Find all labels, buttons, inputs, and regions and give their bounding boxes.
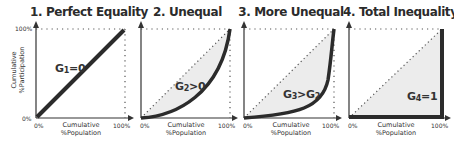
y-tick-100: 100%: [15, 25, 32, 32]
x-axis-label: Cumulative %Population: [371, 121, 421, 137]
x-tick-0: 0%: [243, 122, 253, 129]
gini-symbol: G: [55, 62, 64, 75]
x-tick-100: 100%: [218, 122, 235, 129]
gini-annotation: G3>G2: [283, 88, 320, 101]
x-axis-label-line2: %Population: [371, 129, 421, 137]
panel-more-unequal: 3. More Unequal 0% 100% Cumulative %Popu…: [238, 0, 344, 147]
y-axis-label: Cumulative %Participation: [10, 40, 26, 100]
gini-annotation: G4=1: [407, 90, 437, 103]
gini-value: =1: [421, 90, 437, 103]
x-tick-100: 100%: [431, 122, 448, 129]
x-axis-label-line1: Cumulative: [371, 121, 421, 129]
x-tick-100: 100%: [322, 122, 339, 129]
y-axis-label-line1: Cumulative: [10, 40, 18, 100]
x-axis-label-line1: Cumulative: [161, 121, 211, 129]
x-axis-label-line2: %Population: [266, 129, 316, 137]
gini-annotation: G1=0: [55, 62, 85, 75]
gini-value: >G: [297, 88, 315, 101]
x-tick-100: 100%: [113, 122, 130, 129]
x-axis-label: Cumulative %Population: [266, 121, 316, 137]
y-axis-label-line2: %Participation: [18, 40, 26, 100]
x-tick-0: 0%: [34, 122, 44, 129]
gini-symbol: G: [407, 90, 416, 103]
x-axis-label: Cumulative %Population: [56, 121, 106, 137]
x-axis-label-line1: Cumulative: [56, 121, 106, 129]
y-tick-0: 0%: [22, 115, 32, 122]
gini-subscript-2: 2: [315, 92, 320, 101]
gini-annotation: G2>0: [175, 80, 205, 93]
x-axis-label-line2: %Population: [56, 129, 106, 137]
panel-total-inequality: 4. Total Inequality 0% 100% Cumulative %…: [343, 0, 454, 147]
panel-perfect-equality: 1. Perfect Equality 100% 0% 0% 100% Cumu…: [0, 0, 135, 147]
gini-value: =0: [69, 62, 85, 75]
x-axis-label: Cumulative %Population: [161, 121, 211, 137]
gini-value: >0: [189, 80, 205, 93]
x-axis-label-line1: Cumulative: [266, 121, 316, 129]
x-tick-0: 0%: [348, 122, 358, 129]
gini-symbol: G: [175, 80, 184, 93]
gini-symbol: G: [283, 88, 292, 101]
x-tick-0: 0%: [140, 122, 150, 129]
x-axis-label-line2: %Population: [161, 129, 211, 137]
panel-unequal: 2. Unequal 0% 100% Cumulative %Populatio…: [135, 0, 240, 147]
